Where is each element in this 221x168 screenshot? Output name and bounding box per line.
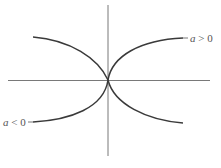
curve-diagram: a > 0 a < 0 (0, 0, 221, 168)
curve-lower-left (33, 80, 108, 122)
curve-upper-right (108, 38, 183, 80)
curve-upper-left (33, 37, 108, 80)
curve-lower-right (108, 80, 183, 123)
label-a-positive: a > 0 (190, 32, 213, 44)
label-a-negative: a < 0 (3, 116, 26, 128)
